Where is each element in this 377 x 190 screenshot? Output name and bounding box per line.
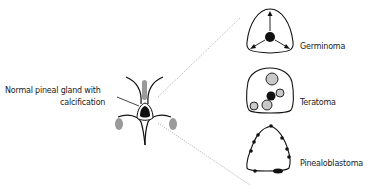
germinoma-diagram	[247, 9, 293, 53]
central-calcification	[265, 32, 275, 42]
main-label-line2: calcification	[60, 98, 105, 107]
pinealoblastoma-diagram	[247, 124, 291, 173]
teratoma-label: Teratoma	[299, 98, 336, 107]
pineal-calcification-diagram: Normal pineal gland with calcification G…	[0, 0, 377, 190]
dotted-line-lower	[158, 123, 250, 185]
calcification-large	[266, 73, 278, 85]
gray-right-blob	[169, 118, 177, 130]
main-label-line1: Normal pineal gland with	[5, 86, 101, 95]
teratoma-diagram	[247, 68, 294, 113]
pinealoblastoma-label: Pinealoblastoma	[300, 159, 363, 168]
calcification-right	[276, 89, 284, 97]
normal-pineal-gland	[115, 77, 177, 145]
gray-vertical-structure	[142, 80, 147, 100]
calcification-bottom	[262, 100, 272, 110]
dotted-line-upper	[158, 18, 240, 97]
label-leader-line	[117, 97, 139, 106]
germinoma-label: Germinoma	[300, 42, 345, 51]
calcification-dark	[267, 92, 276, 101]
gray-left-blob	[115, 118, 123, 130]
calcification-left	[250, 102, 258, 110]
